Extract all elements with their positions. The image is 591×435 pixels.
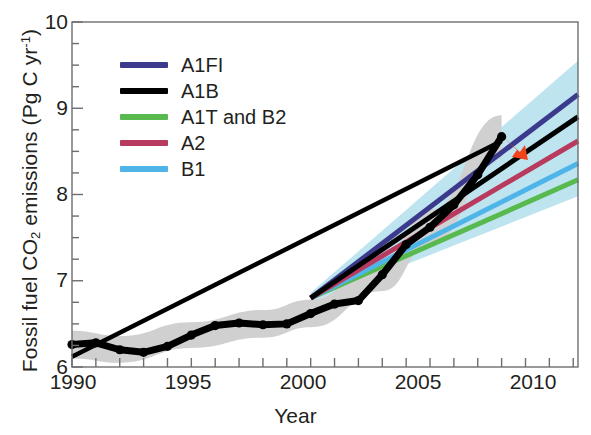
plot-area bbox=[0, 0, 591, 435]
legend-label-a2: A2 bbox=[181, 133, 205, 153]
legend-item-a1fi[interactable]: A1FI bbox=[120, 52, 286, 78]
legend-swatch-a1b bbox=[120, 88, 168, 94]
legend-label-a1b: A1B bbox=[181, 81, 219, 101]
legend-item-b1[interactable]: B1 bbox=[120, 156, 286, 182]
legend-swatch-a1t-and-b2 bbox=[120, 114, 168, 120]
legend-swatch-b1 bbox=[120, 166, 168, 172]
legend-label-b1: B1 bbox=[181, 159, 205, 179]
legend-item-a1t-and-b2[interactable]: A1T and B2 bbox=[120, 104, 286, 130]
legend: A1FI A1B A1T and B2 A2 B1 bbox=[120, 52, 286, 182]
legend-swatch-a1fi bbox=[120, 62, 168, 68]
legend-item-a1b[interactable]: A1B bbox=[120, 78, 286, 104]
legend-item-a2[interactable]: A2 bbox=[120, 130, 286, 156]
legend-swatch-a2 bbox=[120, 140, 168, 146]
legend-label-a1fi: A1FI bbox=[181, 55, 223, 75]
chart-figure: Fossil fuel CO2 emissions (Pg C yr-1) 10… bbox=[0, 0, 591, 435]
legend-label-a1t-and-b2: A1T and B2 bbox=[181, 107, 286, 127]
